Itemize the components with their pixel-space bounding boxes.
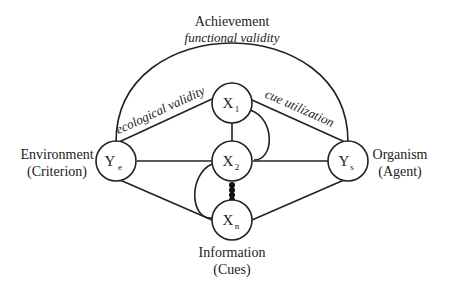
svg-text:X: X xyxy=(223,153,234,169)
svg-text:Y: Y xyxy=(339,153,350,169)
agent-label: (Agent) xyxy=(378,164,422,180)
edge-xn-ys xyxy=(252,180,344,220)
node-ys: Y s xyxy=(328,141,368,181)
cue-utilization-label: cue utilization xyxy=(263,86,337,130)
svg-text:Y: Y xyxy=(105,153,116,169)
ecological-validity-label: ecological validity xyxy=(113,83,207,137)
functional-validity-label: functional validity xyxy=(185,30,280,45)
cues-label: (Cues) xyxy=(213,262,251,278)
svg-text:n: n xyxy=(235,221,240,231)
criterion-label: (Criterion) xyxy=(27,164,87,180)
svg-text:1: 1 xyxy=(235,104,240,114)
lens-model-diagram: Y e X 1 X 2 X n Y s Achievement function… xyxy=(0,0,449,291)
node-x2: X 2 xyxy=(212,141,252,181)
svg-text:e: e xyxy=(118,162,122,172)
svg-text:X: X xyxy=(223,212,234,228)
svg-text:X: X xyxy=(223,95,234,111)
information-label: Information xyxy=(199,245,266,260)
arc-x2-xn xyxy=(195,164,212,218)
node-ye: Y e xyxy=(96,141,136,181)
arc-x1-x2 xyxy=(250,110,269,160)
organism-label: Organism xyxy=(373,147,428,162)
achievement-title: Achievement xyxy=(195,14,270,29)
environment-label: Environment xyxy=(20,147,93,162)
svg-text:2: 2 xyxy=(235,162,240,172)
svg-text:s: s xyxy=(350,162,354,172)
node-xn: X n xyxy=(212,200,252,240)
node-x1: X 1 xyxy=(212,83,252,123)
edge-ye-xn xyxy=(120,180,212,220)
